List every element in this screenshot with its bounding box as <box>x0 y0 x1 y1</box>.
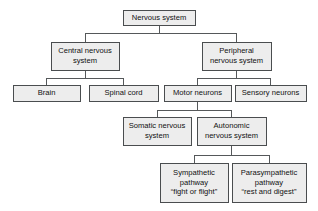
node-somatic-nervous-system[interactable]: Somatic nervoussystem <box>124 118 192 146</box>
node-brain[interactable]: Brain <box>14 86 81 102</box>
node-label-autonomic-nervous-system-line-1: Autonomic <box>214 121 250 130</box>
node-label-somatic-nervous-system-line-1: Somatic nervous <box>129 121 186 130</box>
node-label-central-nervous-system-line-1: Central nervous <box>58 46 112 55</box>
node-label-central-nervous-system-line-2: system <box>73 56 97 65</box>
node-label-nervous-system-line-1: Nervous system <box>132 13 186 22</box>
node-layer: Nervous systemCentral nervoussystemPerip… <box>14 11 307 203</box>
node-spinal-cord[interactable]: Spinal cord <box>90 86 159 102</box>
flowchart-canvas: Nervous systemCentral nervoussystemPerip… <box>0 0 318 211</box>
node-label-sensory-neurons-line-1: Sensory neurons <box>242 88 300 97</box>
node-motor-neurons[interactable]: Motor neurons <box>165 86 232 102</box>
node-parasympathetic-pathway[interactable]: Parasympatheticpathway“rest and digest” <box>233 164 307 203</box>
node-label-somatic-nervous-system-line-2: system <box>145 131 169 140</box>
node-nervous-system[interactable]: Nervous system <box>124 11 196 26</box>
node-label-sympathetic-pathway-line-3: “fight or flight” <box>171 187 218 196</box>
nervous-system-diagram: Nervous systemCentral nervoussystemPerip… <box>0 0 318 211</box>
node-label-sympathetic-pathway-line-1: Sympathetic <box>173 168 215 177</box>
node-label-peripheral-nervous-system-line-1: Peripheral <box>219 46 254 55</box>
node-label-autonomic-nervous-system-line-2: nervous system <box>205 131 258 140</box>
node-central-nervous-system[interactable]: Central nervoussystem <box>52 43 120 71</box>
node-label-parasympathetic-pathway-line-1: Parasympathetic <box>241 168 298 177</box>
node-sympathetic-pathway[interactable]: Sympatheticpathway“fight or flight” <box>161 164 229 203</box>
node-label-peripheral-nervous-system-line-2: nervous system <box>210 56 263 65</box>
node-label-spinal-cord-line-1: Spinal cord <box>105 88 143 97</box>
node-label-sympathetic-pathway-line-2: pathway <box>180 178 208 187</box>
node-label-motor-neurons-line-1: Motor neurons <box>173 88 222 97</box>
node-peripheral-nervous-system[interactable]: Peripheralnervous system <box>203 43 272 71</box>
node-autonomic-nervous-system[interactable]: Autonomicnervous system <box>198 118 267 146</box>
node-label-brain-line-1: Brain <box>38 88 56 97</box>
node-sensory-neurons[interactable]: Sensory neurons <box>236 86 307 102</box>
node-label-parasympathetic-pathway-line-3: “rest and digest” <box>242 187 297 196</box>
node-label-parasympathetic-pathway-line-2: pathway <box>255 178 283 187</box>
